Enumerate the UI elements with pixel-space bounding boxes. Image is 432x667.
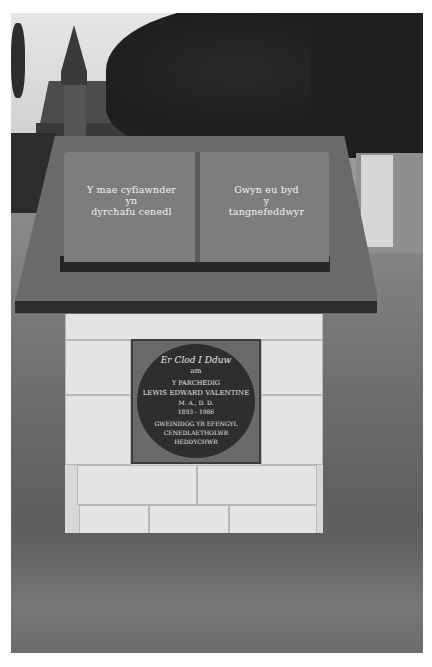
plaque-am: am (133, 367, 259, 375)
memorial-photograph: Er Clod I Dduw am Y PARCHEDIG LEWIS EDWA… (11, 13, 423, 653)
stone-block (65, 310, 323, 340)
plaque-degrees: M. A., D. D. (133, 399, 259, 406)
stone-block (65, 395, 131, 465)
plaque-title: Y PARCHEDIG (133, 379, 259, 387)
stone-block (261, 340, 323, 395)
book-right-page: Gwyn eu byd y tangnefeddwyr (204, 184, 329, 217)
plaque-heading: Er Clod I Dduw (133, 355, 259, 365)
plaque-name: LEWIS EDWARD VALENTINE (133, 389, 259, 397)
right-page-line-2: y (204, 195, 329, 206)
plaque-role-1: GWEINIDOG YR EFENGYL (133, 420, 259, 427)
stone-block (65, 340, 131, 395)
plaque-role-2: CENEDLAETHOLWR (133, 429, 259, 436)
left-page-line-2: yn (69, 195, 194, 206)
open-book-sculpture: Y mae cyfiawnder yn dyrchafu cenedl Gwyn… (64, 152, 329, 262)
tree-left (11, 23, 25, 98)
plaque-role-3: HEDDYCHWR (133, 438, 259, 445)
book-spine (195, 152, 200, 262)
book-left-page: Y mae cyfiawnder yn dyrchafu cenedl (69, 184, 194, 217)
plaque-dates: 1893 - 1986 (133, 408, 259, 415)
stone-block (77, 465, 197, 505)
memorial-plaque: Er Clod I Dduw am Y PARCHEDIG LEWIS EDWA… (131, 339, 261, 464)
slab-edge (15, 301, 377, 313)
left-page-line-1: Y mae cyfiawnder (69, 184, 194, 195)
left-page-line-3: dyrchafu cenedl (69, 206, 194, 217)
right-page-line-3: tangnefeddwyr (204, 206, 329, 217)
grass-foreground (11, 533, 423, 653)
stone-block (261, 395, 323, 465)
stone-block (197, 465, 317, 505)
right-page-line-1: Gwyn eu byd (204, 184, 329, 195)
stone-pillar (361, 155, 393, 247)
